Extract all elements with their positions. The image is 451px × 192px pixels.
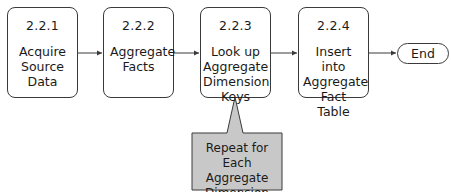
callout-label: Repeat for Each Aggregate Dimension: [196, 141, 278, 192]
step-label: Insert into Aggregate Fact Table: [299, 44, 368, 119]
step-label: Acquire Source Data: [8, 44, 77, 89]
step-number: 2.2.2: [104, 18, 173, 33]
step-box-2-2-3: 2.2.3 Look up Aggregate Dimension Keys: [200, 7, 271, 98]
step-box-2-2-2: 2.2.2 Aggregate Facts: [103, 7, 174, 98]
step-box-2-2-1: 2.2.1 Acquire Source Data: [7, 7, 78, 98]
step-number: 2.2.1: [8, 18, 77, 33]
step-label: Look up Aggregate Dimension Keys: [201, 44, 270, 104]
end-terminal: End: [397, 43, 449, 64]
step-label: Aggregate Facts: [104, 44, 173, 74]
step-number: 2.2.3: [201, 18, 270, 33]
step-number: 2.2.4: [299, 18, 368, 33]
step-box-2-2-4: 2.2.4 Insert into Aggregate Fact Table: [298, 7, 369, 98]
